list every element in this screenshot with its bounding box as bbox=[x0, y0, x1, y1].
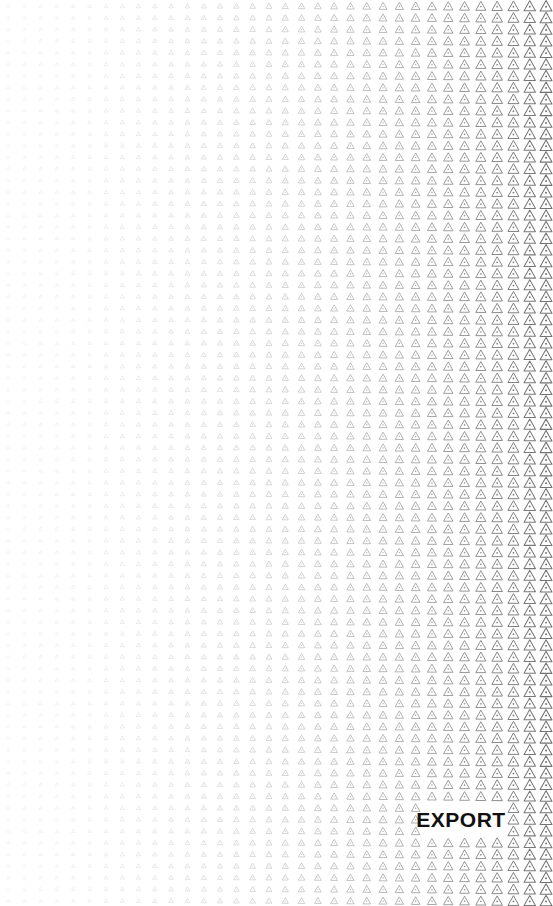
wordmark-plate: EXPORT bbox=[424, 806, 498, 832]
triangle-glyph-field bbox=[0, 0, 553, 906]
export-pattern-canvas: EXPORT bbox=[0, 0, 553, 906]
export-wordmark: EXPORT bbox=[416, 809, 505, 830]
